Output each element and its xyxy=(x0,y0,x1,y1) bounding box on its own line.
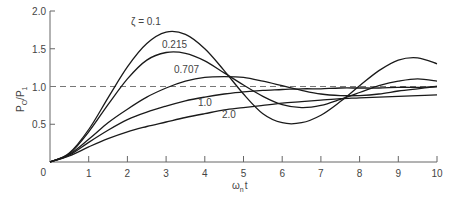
x-tick-label: 9 xyxy=(396,168,402,179)
x-tick-label: 2 xyxy=(125,168,131,179)
y-ticks: 00.51.01.52.0 xyxy=(32,6,55,178)
label-zeta-1-0: 1.0 xyxy=(198,97,212,108)
x-tick-label: 6 xyxy=(279,168,285,179)
label-zeta-0-215: 0.215 xyxy=(162,39,187,50)
x-tick-label: 1 xyxy=(86,168,92,179)
y-tick-label: 0.5 xyxy=(32,119,46,130)
x-tick-label: 4 xyxy=(202,168,208,179)
x-tick-label: 3 xyxy=(163,168,169,179)
y-tick-label: 1.0 xyxy=(32,82,46,93)
y-axis-label: PO/P1 xyxy=(15,86,28,112)
x-tick-label: 5 xyxy=(241,168,247,179)
curves xyxy=(50,31,437,162)
label-zeta-0-1: ζ = 0.1 xyxy=(131,16,161,28)
y-tick-label: 1.5 xyxy=(32,44,46,55)
label-zeta-2-0: 2.0 xyxy=(222,109,236,120)
x-axis-label: ωnt xyxy=(232,180,248,193)
x-tick-label: 10 xyxy=(431,168,443,179)
curve-0-707 xyxy=(50,77,437,162)
x-tick-label: 7 xyxy=(318,168,324,179)
x-tick-label: 8 xyxy=(357,168,363,179)
label-zeta-0-707: 0.707 xyxy=(174,64,199,75)
step-response-chart: 00.51.01.52.0 12345678910 ζ = 0.1 0.215 … xyxy=(0,0,458,197)
x-ticks: 12345678910 xyxy=(86,156,443,179)
y-tick-label: 0 xyxy=(40,167,46,178)
y-tick-label: 2.0 xyxy=(32,6,46,17)
